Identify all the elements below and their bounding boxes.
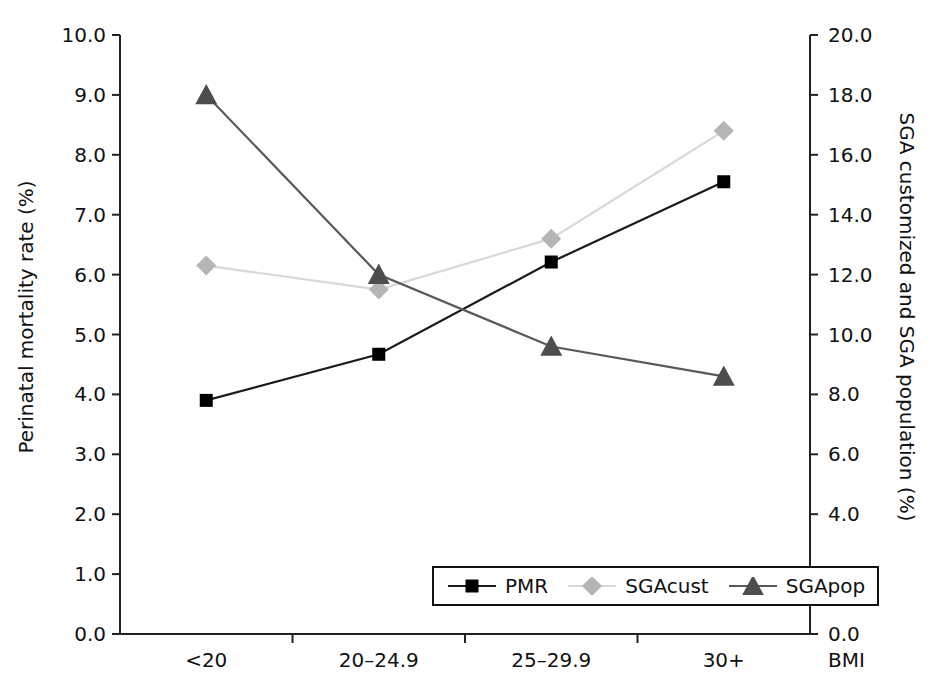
legend-marker-triangle-icon	[727, 577, 779, 595]
legend-item-SGApop: SGApop	[727, 574, 866, 598]
series-SGApop	[195, 84, 735, 386]
data-point-SGAcust-3	[714, 121, 734, 141]
legend-item-SGAcust: SGAcust	[566, 574, 708, 598]
data-point-PMR-1	[372, 348, 385, 361]
data-point-SGApop-0	[195, 84, 217, 104]
data-point-SGAcust-2	[541, 229, 561, 249]
x-axis-title: BMI	[828, 648, 865, 672]
chart-legend: PMRSGAcustSGApop	[432, 566, 879, 606]
x-axis-category-label-0: <20	[185, 648, 227, 672]
legend-marker-diamond-icon	[566, 577, 618, 595]
data-point-PMR-0	[200, 394, 213, 407]
legend-marker-square-icon	[446, 577, 498, 595]
legend-marker	[582, 577, 602, 595]
series-line-SGAcust	[206, 131, 724, 290]
data-point-SGApop-2	[540, 335, 562, 355]
legend-label-SGApop: SGApop	[786, 574, 866, 598]
chart-container: Perinatal mortality rate (%) SGA customi…	[0, 0, 936, 694]
x-axis-category-label-2: 25–29.9	[511, 648, 591, 672]
x-axis-category-label-1: 20–24.9	[339, 648, 419, 672]
legend-marker	[466, 580, 479, 593]
data-point-SGAcust-0	[196, 256, 216, 276]
axis-lines	[112, 35, 818, 643]
legend-label-PMR: PMR	[505, 574, 548, 598]
series-line-PMR	[206, 182, 724, 401]
series-SGAcust	[196, 121, 734, 300]
legend-label-SGAcust: SGAcust	[625, 574, 708, 598]
series-PMR	[200, 175, 731, 407]
data-point-PMR-2	[545, 256, 558, 269]
x-axis-category-label-3: 30+	[703, 648, 745, 672]
data-point-PMR-3	[717, 175, 730, 188]
legend-item-PMR: PMR	[446, 574, 548, 598]
series-line-SGApop	[206, 95, 724, 377]
